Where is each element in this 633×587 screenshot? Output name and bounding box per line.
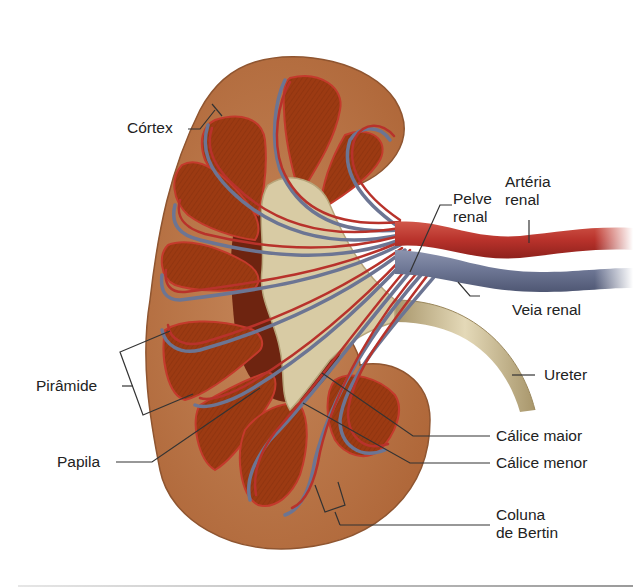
label-renal-pelvis-line2: renal [453, 208, 492, 226]
label-major-calyx: Cálice maior [496, 427, 582, 445]
label-column-of-bertin-line1: Coluna [496, 506, 558, 524]
label-renal-artery-line2: renal [505, 191, 551, 209]
label-ureter: Ureter [544, 366, 587, 384]
label-renal-vein: Veia renal [512, 301, 581, 319]
label-renal-artery-line1: Artéria [505, 173, 551, 191]
label-papilla: Papila [57, 453, 100, 471]
label-column-of-bertin: Coluna de Bertin [496, 506, 558, 542]
label-pyramid: Pirâmide [36, 377, 97, 395]
label-column-of-bertin-line2: de Bertin [496, 524, 558, 542]
label-minor-calyx: Cálice menor [496, 454, 587, 472]
label-renal-artery: Artéria renal [505, 173, 551, 209]
kidney-illustration [0, 0, 633, 587]
label-renal-pelvis: Pelve renal [453, 190, 492, 226]
label-cortex: Córtex [127, 119, 173, 137]
label-renal-pelvis-line1: Pelve [453, 190, 492, 208]
